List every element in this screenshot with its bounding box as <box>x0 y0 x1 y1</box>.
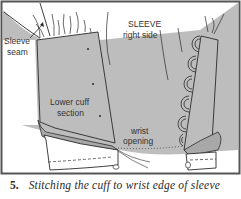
figure-caption: 5.Stitching the cuff to wrist edge of sl… <box>10 179 241 197</box>
label-sleeve-right-side-1: SLEEVE <box>128 19 161 29</box>
label-sleeve-seam-1: Sleeve <box>4 36 30 46</box>
label-wrist-opening-1: wrist <box>130 126 149 136</box>
caption-number: 5. <box>10 179 19 191</box>
cuff-roll-left <box>113 165 119 169</box>
marking-dot <box>87 48 89 50</box>
cuff-roll-right <box>186 162 191 168</box>
caption-text: Stitching the cuff to wrist edge of slee… <box>29 179 220 191</box>
marking-dot <box>99 115 101 117</box>
label-wrist-opening-2: opening <box>123 136 154 146</box>
label-lower-cuff-2: section <box>57 108 84 118</box>
sewing-diagram: Sleeve seam SLEEVE right side Lower cuff… <box>0 0 241 199</box>
label-lower-cuff-1: Lower cuff <box>50 97 90 107</box>
label-sleeve-seam-2: seam <box>7 47 28 57</box>
label-sleeve-right-side-2: right side <box>123 30 158 40</box>
cuff-interfacing-right <box>186 152 216 170</box>
marking-dot <box>92 83 94 85</box>
